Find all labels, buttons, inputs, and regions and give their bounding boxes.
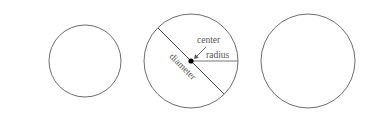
large-circle (261, 14, 355, 108)
center-arrow-shaft (196, 47, 206, 57)
annotated-circle-group: center radius diameter (144, 14, 238, 108)
center-dot (188, 58, 193, 63)
center-label: center (197, 35, 221, 45)
small-circle (49, 25, 121, 97)
radius-label: radius (206, 50, 230, 60)
circle-diagram: center radius diameter (0, 0, 382, 129)
diameter-label: diameter (168, 51, 199, 82)
